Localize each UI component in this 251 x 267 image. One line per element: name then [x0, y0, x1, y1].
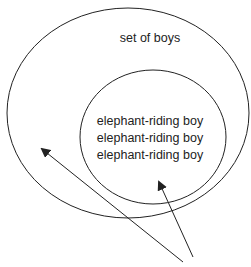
- arrow-to-inner-set: [159, 182, 193, 257]
- inner-set-member: elephant-riding boy: [97, 114, 204, 128]
- venn-diagram: set of boys elephant-riding boy elephant…: [0, 0, 251, 267]
- inner-set-member: elephant-riding boy: [97, 131, 204, 145]
- outer-set-label: set of boys: [120, 31, 180, 45]
- inner-set-member: elephant-riding boy: [97, 148, 204, 162]
- arrow-to-outer-set: [42, 149, 183, 262]
